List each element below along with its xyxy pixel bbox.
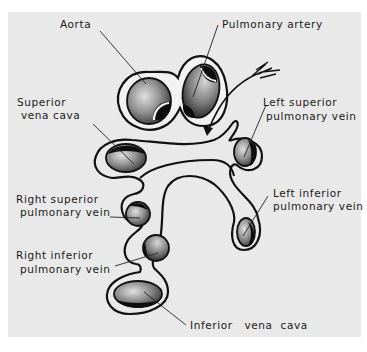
right-inferior-pulmonary-vein-vessel xyxy=(143,235,169,261)
label-inferior-vena-cava: Inferior vena cava xyxy=(190,319,308,331)
label-right-inferior-pv-line2: pulmonary vein xyxy=(16,263,110,275)
aorta-vessel xyxy=(127,78,171,124)
label-left-inferior-pv-line2: pulmonary vein xyxy=(273,200,364,212)
pericardial-reflection-diagram xyxy=(0,0,367,352)
left-superior-pulmonary-vein-vessel xyxy=(234,138,256,166)
superior-vena-cava-vessel xyxy=(106,144,146,172)
label-right-inferior-pv-line1: Right inferior xyxy=(16,249,93,261)
label-left-superior-pv-line1: Left superior xyxy=(263,96,337,108)
label-pulmonary-artery: Pulmonary artery xyxy=(222,18,323,30)
leader-aorta xyxy=(100,31,146,84)
label-right-superior-pv-line2: pulmonary vein xyxy=(16,206,110,218)
leader-inferior-vena-cava xyxy=(144,292,186,325)
label-left-superior-pv-line2: pulmonary vein xyxy=(266,110,357,122)
label-superior-vena-cava-line2: vena cava xyxy=(17,109,80,121)
label-right-superior-pv-line1: Right superior xyxy=(16,193,99,205)
inferior-vena-cava-vessel xyxy=(114,281,162,308)
label-superior-vena-cava-line1: Superior xyxy=(17,96,66,108)
label-aorta: Aorta xyxy=(60,18,91,30)
right-superior-pulmonary-vein-vessel xyxy=(126,202,150,226)
label-left-inferior-pv-line1: Left inferior xyxy=(273,187,342,199)
